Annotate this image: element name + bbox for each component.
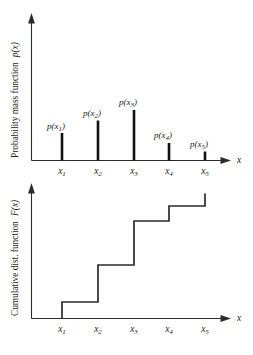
- cdf-panel: Cumulative dist. function F(x) x x1 x2 x…: [10, 183, 242, 336]
- figure-container: Probability mass function p(x) x p(x1) p…: [0, 0, 253, 355]
- cdf-x-tick-labels: x1 x2 x3 x4 x5: [57, 324, 209, 336]
- cdf-y-arrow-icon: [28, 183, 35, 194]
- point-label: p(x4): [153, 130, 172, 142]
- cdf-x-axis-title: x: [236, 313, 242, 323]
- x-tick-label: x1: [57, 324, 66, 336]
- pmf-x-tick-labels: x1 x2 x3 x4 x5: [57, 166, 209, 178]
- pmf-x-arrow-icon: [221, 157, 232, 164]
- cdf-y-axis-title-var: F(x): [10, 200, 21, 217]
- x-tick-label: x5: [200, 324, 209, 336]
- point-label: p(x2): [82, 108, 101, 120]
- x-tick-label: x3: [129, 166, 138, 178]
- x-tick-label: x2: [93, 166, 102, 178]
- cdf-y-axis-title-text: Cumulative dist. function: [10, 221, 20, 316]
- x-tick-label: x2: [93, 324, 102, 336]
- pmf-y-axis-title-text: Probability mass function: [10, 62, 20, 158]
- pmf-point-labels: p(x1) p(x2) p(x3) p(x4) p(x5): [46, 97, 208, 151]
- pmf-y-axis-title: Probability mass function p(x): [10, 42, 21, 158]
- x-tick-label: x5: [200, 166, 209, 178]
- point-label: p(x1): [46, 121, 65, 133]
- x-tick-label: x4: [164, 324, 173, 336]
- pmf-panel: Probability mass function p(x) x p(x1) p…: [10, 13, 242, 178]
- x-tick-label: x3: [129, 324, 138, 336]
- point-label: p(x5): [189, 139, 208, 151]
- x-tick-label: x4: [164, 166, 173, 178]
- pmf-y-axis: [28, 13, 35, 161]
- cdf-y-axis-title: Cumulative dist. function F(x): [10, 200, 21, 316]
- cdf-y-axis: [28, 183, 35, 319]
- cdf-step-curve: [62, 194, 205, 319]
- cdf-x-arrow-icon: [221, 315, 232, 322]
- x-tick-label: x1: [57, 166, 66, 178]
- point-label: p(x3): [118, 97, 137, 109]
- figure-svg: Probability mass function p(x) x p(x1) p…: [0, 0, 253, 355]
- pmf-y-arrow-icon: [28, 13, 35, 24]
- pmf-x-axis-title: x: [236, 155, 242, 165]
- pmf-y-axis-title-var: p(x): [10, 42, 21, 58]
